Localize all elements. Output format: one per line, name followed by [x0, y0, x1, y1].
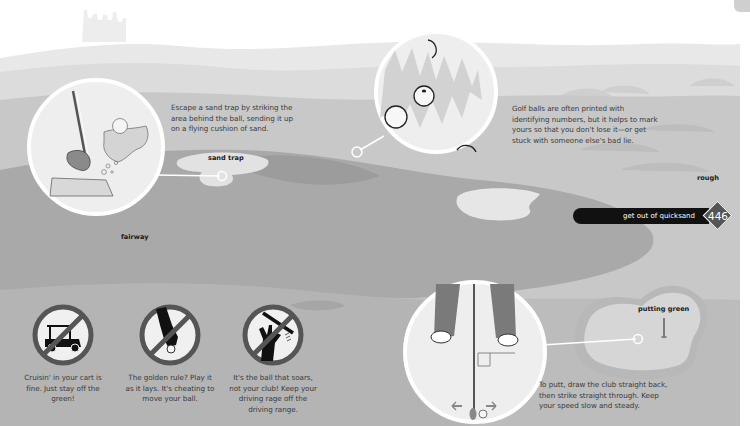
section-tab[interactable]: get out of quicksand	[573, 208, 709, 224]
golf-balls-rough-detail-illustration	[376, 32, 496, 152]
label-putting-green: putting green	[638, 305, 689, 313]
label-sand-trap: sand trap	[208, 154, 244, 162]
rule-caption-driving-rage: It's the ball that soars, not your club!…	[228, 373, 318, 415]
golf-cart-prohibited-icon	[31, 303, 95, 367]
hand-moving-ball-prohibited-icon	[138, 303, 202, 367]
putting-stance-detail-illustration	[405, 282, 545, 422]
golf-balls-callout: Golf balls are often printed with identi…	[512, 104, 662, 146]
section-tab-label: get out of quicksand	[623, 212, 695, 220]
throwing-club-prohibited-icon	[241, 303, 305, 367]
label-fairway: fairway	[121, 233, 148, 241]
page-number-badge: 446	[703, 201, 733, 231]
page-margin	[740, 0, 750, 426]
sand-trap-detail-illustration	[29, 80, 163, 214]
page-corner-tab	[734, 0, 750, 12]
page-number: 446	[703, 201, 733, 231]
rule-caption-cart: Cruisin' in your cart is fine. Just stay…	[18, 373, 108, 405]
book-page: Escape a sand trap by striking the area …	[0, 0, 750, 426]
putting-callout: To putt, draw the club straight back, th…	[539, 380, 669, 412]
rule-caption-play-it-as-it-lays: The golden rule? Play it as it lays. It'…	[124, 373, 216, 405]
sand-trap-callout: Escape a sand trap by striking the area …	[171, 103, 301, 135]
label-rough: rough	[697, 174, 719, 182]
